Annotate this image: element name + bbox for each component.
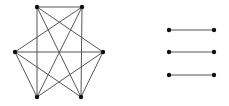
edge-left-bottom-right <box>15 52 81 97</box>
node-b1 <box>212 28 216 32</box>
right-graph <box>167 28 216 77</box>
node-a2 <box>167 50 171 54</box>
node-a3 <box>167 73 171 77</box>
node-bottom-right <box>79 95 83 99</box>
graph-diagram <box>0 0 229 106</box>
edge-top-left-right <box>37 7 103 52</box>
edge-right-bottom-right <box>81 52 103 97</box>
node-b2 <box>212 50 216 54</box>
node-a1 <box>167 28 171 32</box>
edge-left-bottom-left <box>15 52 37 97</box>
edge-top-right-left <box>15 7 82 52</box>
node-top-right <box>80 5 84 9</box>
node-right <box>101 50 105 54</box>
node-top-left <box>35 5 39 9</box>
left-graph <box>13 5 105 99</box>
node-left <box>13 50 17 54</box>
edge-right-bottom-left <box>37 52 103 97</box>
node-b3 <box>212 73 216 77</box>
node-bottom-left <box>35 95 39 99</box>
